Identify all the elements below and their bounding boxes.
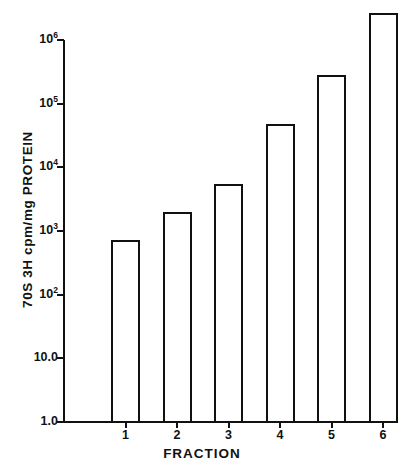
figure-panel: 70S 3H cpm/mg PROTEIN 1.010.010210310410… — [0, 0, 404, 476]
x-axis-tick-label: 6 — [371, 428, 395, 442]
bar — [370, 14, 397, 422]
x-axis-tick-label: 5 — [320, 428, 344, 442]
x-axis-tick-label: 4 — [268, 428, 292, 442]
y-axis-tick-label: 1.0 — [12, 415, 58, 428]
bar-chart-plot — [0, 0, 404, 476]
bar — [215, 185, 242, 422]
y-axis-tick-labels: 1.010.0102103104105106 — [10, 0, 58, 476]
x-axis-title: FRACTION — [0, 446, 404, 461]
x-axis-tick-label: 1 — [114, 428, 138, 442]
y-axis-tick-label: 106 — [12, 33, 58, 46]
y-axis-tick-label: 102 — [12, 288, 58, 301]
bar — [112, 241, 139, 422]
bar — [164, 213, 191, 422]
y-axis-tick-label: 105 — [12, 97, 58, 110]
y-axis-tick-label: 10.0 — [12, 351, 58, 364]
y-axis-tick-label: 104 — [12, 160, 58, 173]
x-axis-tick-label: 2 — [165, 428, 189, 442]
bar — [318, 76, 345, 422]
bar — [267, 125, 294, 422]
y-axis-tick-label: 103 — [12, 224, 58, 237]
x-axis-tick-label: 3 — [217, 428, 241, 442]
